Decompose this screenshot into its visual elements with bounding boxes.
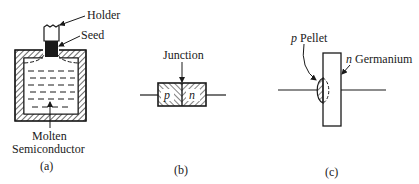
caption-a: (a) <box>40 160 53 173</box>
label-germanium: n Germanium <box>346 53 412 66</box>
panel-a-crucible <box>15 16 86 128</box>
caption-b: (b) <box>174 164 188 177</box>
label-germanium-text: Germanium <box>355 52 412 66</box>
diagram-canvas <box>0 0 419 184</box>
holder <box>44 25 59 41</box>
label-pellet-prefix: p <box>291 31 297 45</box>
label-n-region: n <box>189 89 195 102</box>
label-pellet-text: Pellet <box>300 31 327 45</box>
label-junction: Junction <box>163 49 204 62</box>
seed-crystal <box>45 41 58 57</box>
label-pellet: p Pellet <box>291 32 327 45</box>
label-semiconductor: Semiconductor <box>12 143 85 156</box>
label-germanium-prefix: n <box>346 52 352 66</box>
pellet <box>317 78 323 103</box>
panel-b-junction <box>140 62 226 106</box>
label-holder: Holder <box>87 9 120 22</box>
caption-c: (c) <box>325 166 338 179</box>
germanium-slab <box>323 53 341 126</box>
label-p-region: p <box>164 89 170 102</box>
label-seed: Seed <box>81 29 104 42</box>
